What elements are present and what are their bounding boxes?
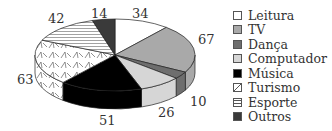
pie-chart <box>0 0 225 131</box>
label-danca: 10 <box>190 95 207 108</box>
swatch-outros <box>233 112 242 121</box>
label-leitura: 34 <box>132 7 149 20</box>
legend-item-computador: Computador <box>233 52 327 67</box>
label-computador: 26 <box>158 106 175 119</box>
legend-item-musica: Música <box>233 66 327 81</box>
swatch-tv <box>233 25 242 34</box>
legend-item-outros: Outros <box>233 110 327 125</box>
swatch-turismo <box>233 83 242 92</box>
legend-item-esporte: Esporte <box>233 95 327 110</box>
legend-item-tv: TV <box>233 23 327 38</box>
swatch-computador <box>233 54 242 63</box>
label-esporte: 42 <box>48 12 65 25</box>
pie-slices <box>35 19 195 109</box>
label-musica: 51 <box>99 114 116 127</box>
label-turismo: 63 <box>17 73 34 86</box>
legend-item-turismo: Turismo <box>233 81 327 96</box>
legend-item-leitura: Leitura <box>233 8 327 23</box>
label-tv: 67 <box>198 33 215 46</box>
swatch-musica <box>233 69 242 78</box>
swatch-leitura <box>233 11 242 20</box>
label-outros: 14 <box>91 7 108 20</box>
legend: Leitura TV Dança Computador Música Turis… <box>233 8 327 124</box>
swatch-esporte <box>233 98 242 107</box>
legend-item-danca: Dança <box>233 37 327 52</box>
swatch-danca <box>233 40 242 49</box>
